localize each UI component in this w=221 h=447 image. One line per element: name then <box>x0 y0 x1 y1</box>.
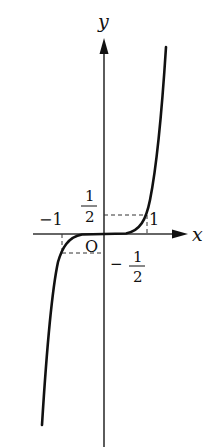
tick-label-y-half: 1 2 <box>81 187 97 226</box>
x-axis-label: x <box>192 223 203 245</box>
svg-text:1: 1 <box>133 248 143 266</box>
tick-label-x-1: 1 <box>149 210 159 229</box>
y-axis-label: y <box>97 10 109 32</box>
origin-label: O <box>85 237 98 256</box>
svg-text:1: 1 <box>85 187 95 205</box>
svg-text:2: 2 <box>85 208 95 226</box>
tick-label-y-neg-half: − 1 2 <box>110 248 145 286</box>
y-axis-arrow-icon <box>100 38 109 54</box>
x-axis-arrow-icon <box>172 230 188 239</box>
svg-text:2: 2 <box>133 268 143 286</box>
svg-text:−: − <box>110 255 123 273</box>
function-graph: y x O 1 −1 1 2 − 1 2 <box>0 0 221 447</box>
tick-label-x-neg1: −1 <box>39 210 63 229</box>
